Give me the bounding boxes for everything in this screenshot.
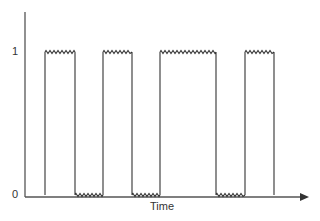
x-axis-label: Time bbox=[150, 200, 174, 212]
x-axis-arrow-icon bbox=[300, 193, 309, 201]
y-tick-zero: 0 bbox=[12, 188, 18, 200]
square-wave-diagram bbox=[0, 0, 320, 221]
signal-waveform bbox=[45, 51, 274, 197]
y-tick-one: 1 bbox=[12, 45, 18, 57]
